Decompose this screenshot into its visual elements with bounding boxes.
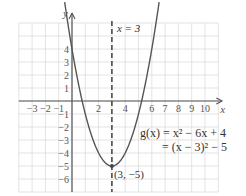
parabola-graph: −3−2−1246789104321−1−2−3−4−5−6 x = 3 (3,…: [0, 0, 246, 196]
y-tick-label: −2: [58, 122, 69, 133]
equation-line-2: = (x − 3)² − 5: [162, 140, 227, 154]
y-tick-label: −6: [58, 174, 69, 185]
x-tick-label: −3: [27, 103, 38, 114]
y-axis-label: y: [62, 7, 68, 19]
equation-line-1: g(x) = x² − 6x + 4: [140, 126, 226, 140]
x-tick-label: 7: [163, 103, 168, 114]
y-tick-label: −3: [58, 135, 69, 146]
x-tick-label: 10: [200, 103, 210, 114]
y-tick-label: 1: [64, 83, 69, 94]
y-tick-label: 4: [64, 44, 69, 55]
x-axis-label: x: [219, 103, 225, 115]
y-tick-label: −4: [58, 148, 69, 159]
x-tick-label: −2: [40, 103, 51, 114]
vertex-label: (3, −5): [114, 168, 144, 181]
y-tick-label: 3: [64, 57, 69, 68]
y-tick-label: 2: [64, 70, 69, 81]
y-tick-label: −1: [58, 109, 69, 120]
axis-of-symmetry-label: x = 3: [116, 22, 141, 34]
x-tick-label: 4: [123, 103, 128, 114]
x-tick-label: 8: [176, 103, 181, 114]
x-tick-label: 6: [149, 103, 154, 114]
y-tick-label: −5: [58, 161, 69, 172]
x-tick-label: 2: [96, 103, 101, 114]
x-tick-label: 9: [189, 103, 194, 114]
